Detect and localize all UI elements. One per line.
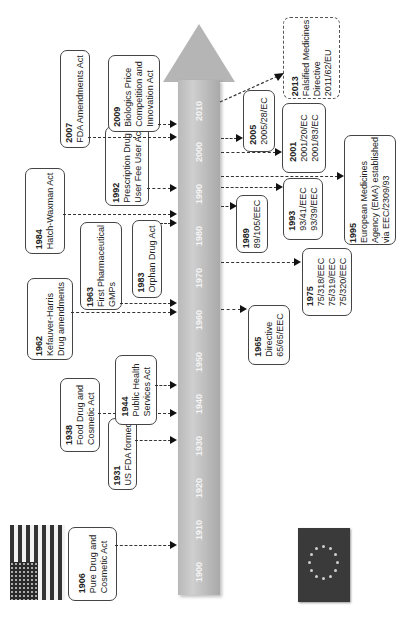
us-event-1944: 1944Public HealthServices Act xyxy=(115,355,157,425)
arrow-1938 xyxy=(170,409,177,417)
eu-event-1993: 199393/41/EEC93/39/EEC xyxy=(283,178,323,240)
arrow-2005 xyxy=(236,134,243,142)
arrow-1992 xyxy=(170,184,177,192)
us-event-1983: 1983Orphan Drug Act xyxy=(132,220,162,298)
axis-label-1930: 1930 xyxy=(178,439,220,453)
us-event-1962: 1962Kefauver-HarrisDrug amendments xyxy=(27,278,73,360)
connector-1992 xyxy=(147,188,171,189)
connector-1963 xyxy=(120,303,171,304)
arrow-1962 xyxy=(170,308,177,316)
us-flag-icon xyxy=(10,525,65,600)
eu-event-1965: 1965Directive65/65/EEC xyxy=(248,305,290,365)
arrow-1906 xyxy=(170,541,177,549)
connector-1984 xyxy=(63,214,171,215)
axis-label-1940: 1940 xyxy=(178,397,220,411)
us-event-2007: 2007FDA Amendments Act xyxy=(60,50,90,148)
eu-event-1975: 197575/318/EEC75/319/EEC75/320/EEC xyxy=(302,248,352,316)
connector-1906 xyxy=(115,545,171,546)
us-event-2009: 2009Biologics PriceCompetition andInnova… xyxy=(108,55,160,132)
axis-label-1950: 1950 xyxy=(178,355,220,369)
arrow-1995 xyxy=(337,172,344,180)
connector-1993 xyxy=(221,187,277,188)
arrow-1975 xyxy=(294,258,301,266)
axis-label-1980: 1980 xyxy=(178,229,220,243)
arrow-2009 xyxy=(170,120,177,128)
axis-label-1910: 1910 xyxy=(178,523,220,537)
us-event-1906: 1906Pure Drug andCosmetic Act xyxy=(68,527,117,601)
connector-1995 xyxy=(221,176,338,177)
eu-event-1995: 1995European MedicinesAgency (EMA) estab… xyxy=(344,135,396,245)
connector-2001 xyxy=(221,152,276,153)
connector-1975 xyxy=(221,262,295,263)
axis-label-1920: 1920 xyxy=(178,481,220,495)
connector-1965 xyxy=(221,309,241,310)
connector-2013 xyxy=(218,70,288,105)
axis-label-1960: 1960 xyxy=(178,313,220,327)
eu-event-2013: 2013Falsified MedicinesDirective2011/62/… xyxy=(283,17,340,99)
eu-event-1989: 198989/105/EEC xyxy=(236,195,268,253)
arrow-2007 xyxy=(170,133,177,141)
eu-flag-icon xyxy=(298,528,350,602)
arrow-2001 xyxy=(275,148,282,156)
connector-2005 xyxy=(221,138,237,139)
connector-1931 xyxy=(135,440,171,441)
arrow-1983 xyxy=(170,219,177,227)
us-event-1963: 1963First PharmaceuticalGMPs xyxy=(80,222,122,310)
axis-label-1970: 1970 xyxy=(178,271,220,285)
connector-1962 xyxy=(71,312,171,313)
arrow-1931 xyxy=(170,436,177,444)
arrow-1993 xyxy=(276,183,283,191)
us-event-1992: 1992Prescription DrugUser Fee User Act xyxy=(105,126,149,206)
axis-label-1900: 1900 xyxy=(178,565,220,579)
axis-label-2000: 2000 xyxy=(178,145,220,159)
axis-label-1990: 1990 xyxy=(178,187,220,201)
arrow-1984 xyxy=(170,210,177,218)
arrow-1944 xyxy=(170,381,177,389)
us-event-1938: 1938Food Drug andCosmetic Act xyxy=(60,378,100,452)
arrow-1963 xyxy=(170,299,177,307)
connector-2007 xyxy=(88,137,171,138)
eu-event-2001: 20012001/20/EC2001/83/EC xyxy=(282,103,326,173)
arrow-1965 xyxy=(240,305,247,313)
axis-label-2010: 2010 xyxy=(178,104,220,118)
arrow-1989 xyxy=(230,202,237,210)
us-event-1984: 1984Hatch-Waxman Act xyxy=(25,168,65,254)
connector-1944 xyxy=(155,385,171,386)
us-event-1931: 1931US FDA formed xyxy=(108,418,137,490)
